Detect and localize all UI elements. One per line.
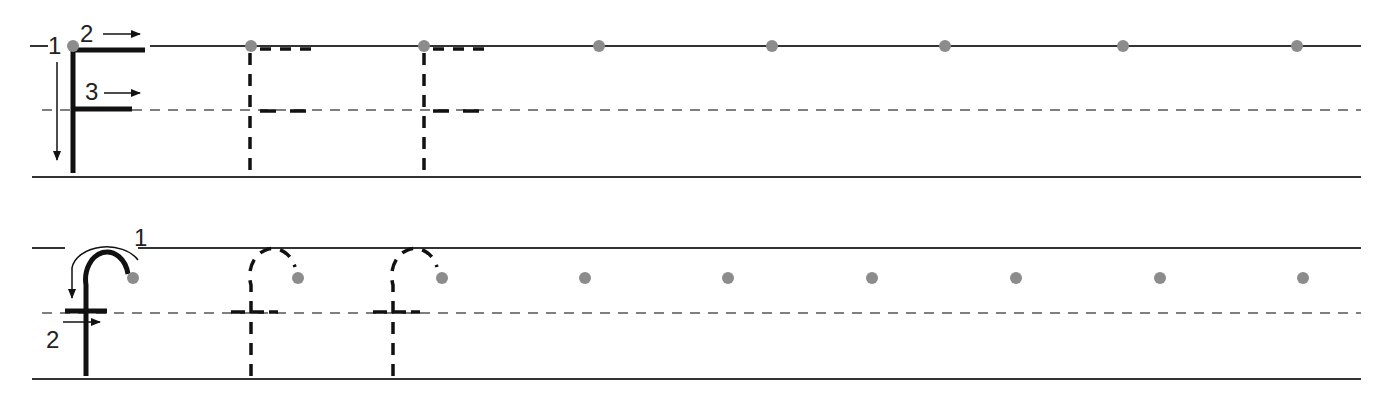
practice-start-dot <box>1297 272 1309 284</box>
step-label-2: 2 <box>80 20 93 47</box>
practice-start-dot <box>1154 272 1166 284</box>
handwriting-worksheet: 1 2 3 <box>0 0 1389 396</box>
start-dot <box>436 272 448 284</box>
start-dot <box>292 272 304 284</box>
practice-start-dot <box>939 40 951 52</box>
trace-letter-f <box>373 249 448 376</box>
practice-start-dot <box>1010 272 1022 284</box>
start-dot <box>67 40 79 52</box>
practice-start-dot <box>1117 40 1129 52</box>
row-uppercase-f: 1 2 3 <box>30 20 1361 177</box>
example-letter-F <box>67 40 145 173</box>
trace-letter-F <box>245 40 318 174</box>
row-lowercase-f: 1 2 <box>32 224 1361 379</box>
step-label-3: 3 <box>85 78 98 105</box>
trace-letter-F <box>418 40 491 174</box>
practice-start-dot <box>1291 40 1303 52</box>
stroke-order-hints: 1 2 3 <box>48 20 140 160</box>
start-dot <box>245 40 257 52</box>
step-label-1: 1 <box>48 32 61 59</box>
trace-letter-f <box>231 249 304 376</box>
practice-start-dot <box>593 40 605 52</box>
step-label-1: 1 <box>134 224 147 251</box>
practice-start-dot <box>866 272 878 284</box>
step-label-2: 2 <box>46 326 59 353</box>
practice-start-dot <box>766 40 778 52</box>
stroke-order-hints: 1 2 <box>46 224 147 353</box>
start-dot <box>127 272 139 284</box>
start-dot <box>418 40 430 52</box>
practice-start-dot <box>722 272 734 284</box>
practice-start-dot <box>579 272 591 284</box>
example-letter-f <box>65 252 139 376</box>
